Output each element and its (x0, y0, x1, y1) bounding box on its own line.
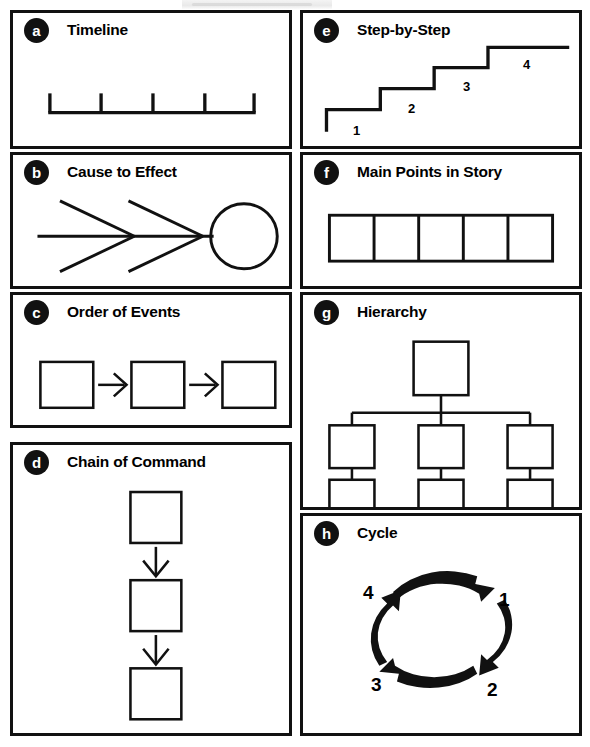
org-tree-diagram (303, 295, 579, 507)
step-label-3: 3 (463, 79, 470, 94)
graphic-organizers-sheet: a Timeline b Cause to Effect (0, 0, 590, 747)
cycle-label-4: 4 (363, 582, 374, 604)
panel-order-of-events[interactable]: c Order of Events (10, 292, 292, 428)
cycle-label-3: 3 (371, 674, 382, 696)
timeline-diagram (13, 13, 289, 146)
panel-chain-of-command[interactable]: d Chain of Command (10, 442, 292, 736)
staircase-diagram (303, 13, 579, 146)
panel-step-by-step[interactable]: e Step-by-Step 1 2 3 4 (300, 10, 582, 149)
panel-hierarchy[interactable]: g Hierarchy (300, 292, 582, 510)
panel-main-points-in-story[interactable]: f Main Points in Story (300, 152, 582, 289)
cycle-arrows-diagram (303, 516, 579, 733)
panel-cause-to-effect[interactable]: b Cause to Effect (10, 152, 292, 289)
step-label-2: 2 (408, 101, 415, 116)
vertical-chain-diagram (13, 445, 289, 733)
fishbone-diagram (13, 155, 289, 286)
panel-timeline[interactable]: a Timeline (10, 10, 292, 149)
box-strip-diagram (303, 155, 579, 286)
scan-artifact (182, 0, 332, 9)
cycle-label-2: 2 (487, 679, 498, 701)
panel-cycle[interactable]: h Cycle 4 1 2 3 (300, 513, 582, 736)
step-label-4: 4 (523, 57, 530, 72)
cycle-label-1: 1 (499, 589, 510, 611)
sequence-boxes-diagram (13, 295, 289, 425)
step-label-1: 1 (353, 123, 360, 138)
